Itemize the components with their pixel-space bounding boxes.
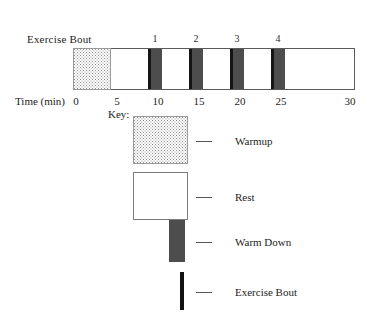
legend-label-warmup: Warmup: [235, 135, 273, 147]
bout-group-1: 1: [148, 49, 162, 89]
warm-down-segment-4: [274, 49, 285, 89]
exercise-bout-title: Exercise Bout: [27, 33, 92, 45]
tick-label-0: 0: [73, 95, 79, 107]
bout-number-1: 1: [153, 33, 158, 44]
legend-label-rest: Rest: [235, 191, 255, 203]
bout-number-4: 4: [276, 33, 281, 44]
tick-label-15: 15: [194, 95, 205, 107]
tick-label-30: 30: [345, 95, 356, 107]
bout-group-3: 3: [230, 49, 244, 89]
bout-group-4: 4: [271, 49, 285, 89]
legend-swatch-exercise-bout: [180, 272, 184, 310]
legend-label-warm-down: Warm Down: [235, 236, 291, 248]
legend-connector-warmup: [196, 141, 212, 142]
tick-label-10: 10: [153, 95, 164, 107]
bout-number-3: 3: [235, 33, 240, 44]
tick-label-20: 20: [235, 95, 246, 107]
time-axis-label: Time (min): [15, 95, 65, 107]
legend-swatch-rest: [133, 172, 188, 220]
bout-group-2: 2: [189, 49, 203, 89]
legend-label-exercise-bout: Exercise Bout: [235, 286, 297, 298]
warm-down-segment-3: [233, 49, 244, 89]
warmup-segment: [73, 48, 111, 90]
tick-label-25: 25: [276, 95, 287, 107]
legend-connector-rest: [196, 197, 212, 198]
bout-number-2: 2: [194, 33, 199, 44]
warm-down-segment-1: [151, 49, 162, 89]
legend-connector-exercise-bout: [196, 292, 212, 293]
legend-connector-warm-down: [196, 242, 212, 243]
tick-label-5: 5: [114, 95, 120, 107]
key-title: Key:: [108, 108, 129, 120]
warm-down-segment-2: [192, 49, 203, 89]
legend-swatch-warm-down: [169, 220, 185, 262]
legend-swatch-warmup: [133, 116, 188, 164]
